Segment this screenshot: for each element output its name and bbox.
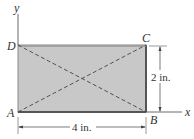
point-label-a: A [6, 106, 15, 120]
point-label-d: D [6, 39, 16, 53]
height-dimension-label: 2 in. [151, 71, 171, 83]
rectangle-diagram: y x D C A B 2 in. 4 in. [0, 0, 194, 139]
point-label-c: C [142, 31, 151, 45]
width-arrow-left [18, 126, 23, 129]
point-label-b: B [150, 113, 158, 127]
height-arrow-top [159, 46, 162, 51]
width-arrow-right [141, 126, 146, 129]
y-axis-label: y [13, 1, 20, 15]
width-dimension-label: 4 in. [72, 121, 92, 133]
height-arrow-bottom [159, 107, 162, 112]
x-axis-label: x [184, 105, 191, 119]
